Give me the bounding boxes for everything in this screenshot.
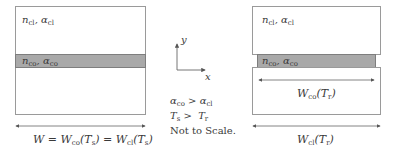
alpha-subscript: cl xyxy=(206,100,212,108)
operator: > xyxy=(185,95,200,106)
y-axis-label: y xyxy=(181,35,187,45)
x-axis-label: x xyxy=(205,72,211,82)
temperature-relation: Ts > Tr xyxy=(170,110,236,125)
scale-note: Not to Scale. xyxy=(170,125,236,136)
alpha-symbol: α xyxy=(170,95,177,106)
t-symbol: T xyxy=(198,110,205,121)
t-symbol: T xyxy=(170,110,177,121)
t-subscript: r xyxy=(205,115,208,123)
operator: > xyxy=(180,110,198,121)
notes-block: αco > αcl Ts > Tr Not to Scale. xyxy=(170,95,236,136)
alpha-subscript: co xyxy=(177,100,185,108)
alpha-relation: αco > αcl xyxy=(170,95,236,110)
